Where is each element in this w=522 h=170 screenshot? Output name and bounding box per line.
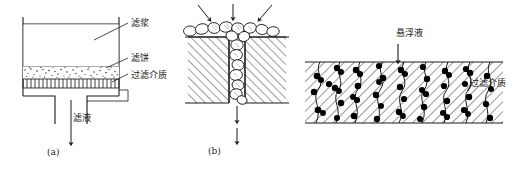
filter-cake-layer: [23, 66, 119, 79]
label-cake: 滤饼: [131, 54, 149, 63]
panel-a-group: [23, 17, 128, 144]
label-filter-medium-c: 过滤介质: [470, 79, 506, 88]
filter-medium-grid: [23, 79, 119, 88]
medium-wall-right: [245, 37, 286, 103]
caption-panel-b: (b): [208, 146, 221, 156]
medium-wall-left: [188, 37, 229, 103]
slurry-region: [24, 25, 119, 67]
label-filter-medium-a: 过滤介质: [131, 71, 167, 80]
filtration-mechanisms-figure: [0, 0, 522, 170]
panel-b-group: [184, 4, 290, 143]
label-slurry: 滤浆: [131, 19, 149, 28]
label-suspension: 悬浮液: [396, 29, 423, 38]
label-filtrate: 滤液: [73, 114, 91, 123]
caption-panel-a: (a): [47, 147, 59, 157]
inflow-arrows: [198, 4, 272, 20]
